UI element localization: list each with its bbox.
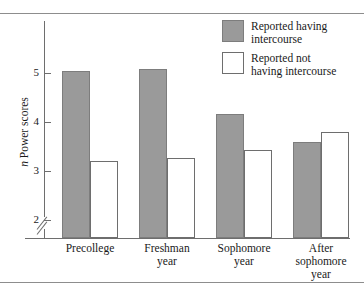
y-tick-mark-5	[44, 73, 51, 74]
y-tick-mark-3	[44, 171, 51, 172]
bar-after-sophomore-not-having	[321, 132, 349, 238]
x-label-after-sophomore-line2: sophomore	[273, 255, 364, 268]
y-tick-label-2: 2	[21, 214, 39, 225]
legend-label-not-having-intercourse: Reported not having intercourse	[251, 52, 336, 77]
x-label-after-sophomore: After sophomore year	[273, 242, 364, 281]
legend-item-not-having-intercourse: Reported not having intercourse	[222, 52, 364, 77]
bar-precollege-not-having	[90, 161, 118, 238]
bar-freshman-not-having	[167, 158, 195, 238]
legend-label-having-line2: intercourse	[251, 33, 327, 46]
bar-after-sophomore-having	[293, 142, 321, 238]
x-axis-line	[25, 238, 350, 239]
chart-legend: Reported having intercourse Reported not…	[222, 20, 364, 84]
legend-label-not-having-line2: having intercourse	[251, 65, 336, 78]
x-label-after-sophomore-line3: year	[273, 268, 364, 281]
legend-label-not-having-line1: Reported not	[251, 52, 336, 65]
y-tick-mark-4	[44, 122, 51, 123]
legend-label-having-intercourse: Reported having intercourse	[251, 20, 327, 45]
y-axis-line	[44, 21, 45, 217]
bar-sophomore-having	[216, 114, 244, 238]
legend-item-having-intercourse: Reported having intercourse	[222, 20, 364, 45]
bar-freshman-having	[139, 69, 167, 238]
chart-figure: 5 4 3 2 n Power scores Precollege Freshm…	[0, 0, 364, 289]
legend-swatch-open-icon	[222, 52, 244, 74]
y-axis-title-italic-n: n	[18, 161, 30, 167]
legend-label-having-line1: Reported having	[251, 20, 327, 33]
bar-sophomore-not-having	[244, 150, 272, 238]
y-axis-title: n Power scores	[18, 62, 30, 202]
y-axis-break-icon	[37, 219, 53, 233]
y-tick-mark-2	[44, 220, 51, 221]
y-axis-title-rest: Power scores	[18, 97, 30, 161]
x-label-after-sophomore-line1: After	[273, 242, 364, 255]
bar-precollege-having	[62, 71, 90, 238]
legend-swatch-filled-icon	[222, 20, 244, 42]
